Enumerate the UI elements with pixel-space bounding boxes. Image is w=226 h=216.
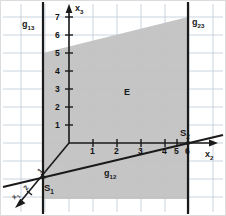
tick-label-x3-2: 2 xyxy=(55,103,60,112)
tick-label-x3-4: 4 xyxy=(55,67,60,76)
diagram-canvas xyxy=(0,0,226,216)
label-line-g12: g12 xyxy=(104,169,116,180)
tick-label-x3-7: 7 xyxy=(55,13,60,22)
tick-label-x2-4: 4 xyxy=(162,147,167,156)
tick-label-x2-1: 1 xyxy=(90,147,95,156)
tick-label-x3-3: 3 xyxy=(55,85,60,94)
tick-label-x2-6: 6 xyxy=(185,147,190,156)
label-line-g23-sub: 23 xyxy=(198,22,205,29)
axis-label-x3: x3 xyxy=(75,4,83,15)
axis-label-x3-sub: 3 xyxy=(80,8,83,15)
axis-label-x2: x2 xyxy=(205,150,213,161)
label-line-g13-sub: 13 xyxy=(28,24,35,31)
tick-label-x3-6: 6 xyxy=(55,31,60,40)
label-line-g12-sub: 12 xyxy=(110,173,117,180)
tick-label-x2-5: 5 xyxy=(174,147,179,156)
point-S2-marker xyxy=(186,141,190,145)
coordinate-plane-figure: 1 2 3 4 5 6 7 1 2 3 4 5 6 1 2 x3 x2 x1 g… xyxy=(0,0,226,216)
label-point-S2-sub: 2 xyxy=(186,133,190,140)
label-point-S1: S1 xyxy=(44,183,54,195)
label-point-S1-sub: 1 xyxy=(50,188,54,195)
label-region-E: E xyxy=(124,88,130,97)
label-line-g13: g13 xyxy=(22,20,34,31)
label-point-S2: S2 xyxy=(180,128,190,140)
tick-label-x2-3: 3 xyxy=(138,147,143,156)
tick-label-x3-5: 5 xyxy=(55,49,60,58)
tick-label-x3-1: 1 xyxy=(55,121,60,130)
tick-label-x2-2: 2 xyxy=(114,147,119,156)
axis-label-x2-sub: 2 xyxy=(210,154,213,161)
point-S1-marker xyxy=(41,176,44,179)
label-line-g23: g23 xyxy=(192,18,204,29)
